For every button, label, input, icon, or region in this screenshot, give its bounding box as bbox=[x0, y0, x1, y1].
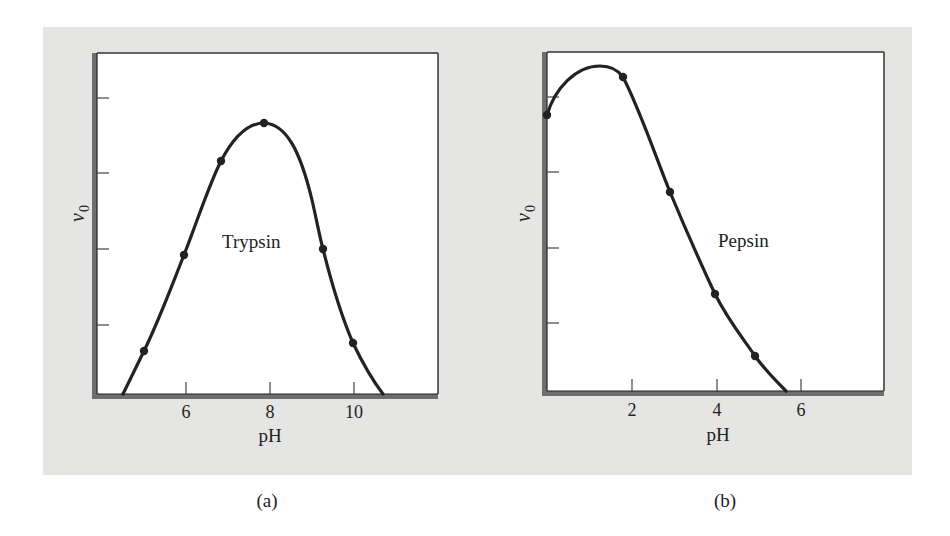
x-axis-label: pH bbox=[258, 425, 282, 446]
chart-trypsin: 6 8 10 pH Trypsin v 0 bbox=[66, 53, 438, 446]
data-point bbox=[751, 352, 759, 360]
series-annotation: Pepsin bbox=[718, 230, 769, 251]
data-point bbox=[619, 73, 627, 81]
data-point bbox=[180, 251, 188, 259]
x-tick-label: 6 bbox=[797, 400, 806, 420]
x-tick-label: 4 bbox=[713, 400, 722, 420]
svg-text:v: v bbox=[512, 213, 534, 222]
y-axis-bar bbox=[92, 53, 97, 399]
data-point bbox=[319, 245, 327, 253]
x-tick-label: 8 bbox=[266, 402, 275, 422]
y-axis-label: v 0 bbox=[66, 205, 92, 222]
panel-label-a: (a) bbox=[256, 490, 277, 512]
data-point bbox=[260, 119, 268, 127]
data-point bbox=[349, 339, 357, 347]
figure-svg: 6 8 10 pH Trypsin v 0 bbox=[0, 0, 950, 536]
chart-pepsin: 2 4 6 pH Pepsin v 0 bbox=[512, 52, 884, 445]
x-tick-label: 2 bbox=[628, 400, 637, 420]
x-tick-label: 6 bbox=[182, 402, 191, 422]
data-point bbox=[666, 188, 674, 196]
x-tick-label: 10 bbox=[345, 402, 363, 422]
svg-text:v: v bbox=[66, 213, 88, 222]
x-axis-bar bbox=[92, 394, 438, 399]
x-axis-bar bbox=[542, 391, 884, 396]
x-axis-label: pH bbox=[706, 424, 730, 445]
data-point bbox=[711, 290, 719, 298]
data-point bbox=[217, 157, 225, 165]
svg-text:0: 0 bbox=[77, 205, 92, 212]
y-axis-label: v 0 bbox=[512, 205, 538, 222]
data-point bbox=[140, 347, 148, 355]
y-axis-bar bbox=[542, 52, 547, 396]
data-point bbox=[543, 111, 551, 119]
series-annotation: Trypsin bbox=[222, 231, 281, 252]
panel-label-b: (b) bbox=[714, 490, 736, 512]
plot-area bbox=[547, 52, 884, 391]
svg-text:0: 0 bbox=[523, 205, 538, 212]
